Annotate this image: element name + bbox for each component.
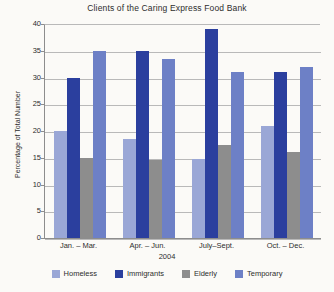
- x-axis-tick-label: July–Sept.: [177, 241, 257, 250]
- y-axis-tick-label: 15: [0, 153, 41, 162]
- bar-group: [192, 25, 244, 238]
- gridline: [45, 239, 321, 240]
- plot-area: [44, 24, 320, 238]
- legend-label: Homeless: [64, 269, 97, 278]
- bar-temporary: [231, 72, 244, 238]
- x-axis-tick-label: Jan. – Mar.: [39, 241, 119, 250]
- legend-label: Immigrants: [127, 269, 164, 278]
- chart-legend: HomelessImmigrantsElderlyTemporary: [0, 269, 334, 278]
- bar-temporary: [93, 51, 106, 238]
- legend-swatch-icon: [52, 270, 60, 278]
- bar-chart: Clients of the Caring Express Food Bank …: [0, 0, 334, 292]
- x-axis-tick-label: Oct. – Dec.: [246, 241, 326, 250]
- bar-temporary: [162, 59, 175, 238]
- x-axis-title: 2004: [0, 252, 334, 261]
- legend-item-immigrants[interactable]: Immigrants: [115, 269, 164, 278]
- bar-group: [123, 25, 175, 238]
- bar-group: [261, 25, 313, 238]
- legend-item-temporary[interactable]: Temporary: [235, 269, 282, 278]
- y-axis-tick-label: 10: [0, 180, 41, 189]
- bar-homeless: [54, 131, 67, 238]
- bar-homeless: [123, 139, 136, 238]
- y-axis-tick-label: 20: [0, 126, 41, 135]
- x-axis-line: [44, 238, 321, 239]
- chart-title: Clients of the Caring Express Food Bank: [0, 3, 334, 13]
- legend-label: Temporary: [247, 269, 282, 278]
- legend-swatch-icon: [115, 270, 123, 278]
- y-axis-tick-label: 30: [0, 73, 41, 82]
- bar-homeless: [261, 126, 274, 238]
- bar-immigrants: [274, 72, 287, 238]
- bar-elderly: [149, 160, 162, 238]
- bar-elderly: [218, 145, 231, 238]
- bar-temporary: [300, 67, 313, 238]
- y-axis-tick-label: 0: [0, 233, 41, 242]
- legend-label: Elderly: [194, 269, 217, 278]
- y-axis-tick-label: 5: [0, 206, 41, 215]
- bar-elderly: [80, 158, 93, 238]
- legend-item-elderly[interactable]: Elderly: [182, 269, 217, 278]
- legend-swatch-icon: [235, 270, 243, 278]
- y-axis-tick-label: 25: [0, 99, 41, 108]
- bar-immigrants: [67, 78, 80, 239]
- legend-item-homeless[interactable]: Homeless: [52, 269, 97, 278]
- bar-homeless: [192, 159, 205, 238]
- bar-elderly: [287, 152, 300, 238]
- x-axis-tick-label: Apr. – Jun.: [108, 241, 188, 250]
- bar-group: [54, 25, 106, 238]
- y-axis-tick-label: 35: [0, 46, 41, 55]
- bar-immigrants: [136, 51, 149, 238]
- bar-immigrants: [205, 29, 218, 238]
- legend-swatch-icon: [182, 270, 190, 278]
- y-axis-tick-label: 40: [0, 19, 41, 28]
